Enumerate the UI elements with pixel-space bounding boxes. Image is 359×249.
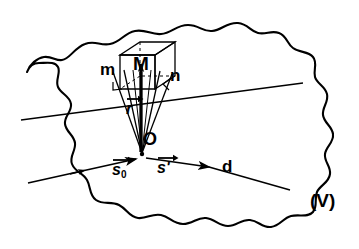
vector-s-prime-mark: '	[166, 159, 170, 176]
vector-arrow-icon	[157, 153, 179, 161]
label-vector-s-prime: s'	[157, 160, 170, 176]
label-vector-r: r	[126, 101, 132, 117]
label-detector-direction: d	[222, 158, 232, 175]
vector-s-prime-symbol: s	[157, 159, 166, 176]
vector-s0-subscript: 0	[121, 169, 127, 180]
point-O-marker	[140, 152, 144, 156]
vector-r-symbol: r	[126, 100, 132, 117]
vector-arrow-icon	[126, 94, 144, 102]
vector-s0-symbol: s	[112, 161, 121, 178]
label-point-M: M	[133, 54, 149, 73]
vector-arrow-icon	[112, 155, 134, 163]
scattering-volume-diagram: m n M O d (V) r s0 s'	[0, 0, 359, 249]
label-vector-s0: s0	[112, 162, 126, 180]
label-n: n	[170, 67, 180, 84]
label-m: m	[100, 61, 115, 78]
diagram-canvas	[0, 0, 359, 249]
volume-outline	[27, 23, 333, 227]
label-volume: (V)	[310, 191, 335, 210]
label-point-O: O	[143, 130, 157, 148]
